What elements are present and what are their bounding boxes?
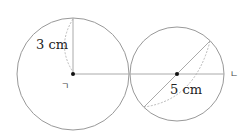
- right-diameter-label: 5 cm: [170, 82, 202, 97]
- left-center-dot: [71, 72, 75, 76]
- left-radius-label: 3 cm: [36, 37, 68, 52]
- right-center-marker: ㄴ: [230, 67, 238, 80]
- two-circles-diagram: [0, 0, 252, 134]
- right-center-dot: [175, 72, 179, 76]
- left-center-marker: ㄱ: [61, 79, 69, 92]
